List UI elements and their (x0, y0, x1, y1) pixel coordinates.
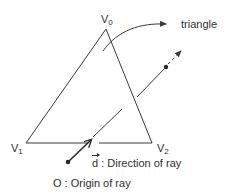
direction-vector-symbol: d (92, 157, 98, 169)
direction-label-text: : Direction of ray (98, 157, 181, 169)
vertex-v2-subscript: 2 (164, 147, 168, 156)
ray-dashed-continuation (168, 51, 181, 64)
vertex-v0-subscript: 0 (108, 18, 112, 27)
ray-origin-point (66, 160, 71, 165)
triangle-pointer-arrow (103, 24, 166, 51)
origin-label: O : Origin of ray (53, 177, 131, 189)
ray-inside-segment (93, 109, 122, 137)
ray-outside-segment (137, 67, 166, 97)
triangle-label: triangle (181, 18, 217, 30)
edge-v0-v2 (106, 29, 152, 143)
vertex-label-v1: V1 (11, 142, 23, 156)
vertex-label-v2: V2 (157, 142, 169, 156)
vertex-label-v0: V0 (101, 13, 113, 27)
triangle-shape (26, 29, 152, 143)
direction-label: d : Direction of ray (92, 157, 181, 169)
vertex-v1-subscript: 1 (18, 147, 22, 156)
ray-exit-point (164, 65, 168, 69)
edge-v1-v0 (26, 29, 106, 143)
